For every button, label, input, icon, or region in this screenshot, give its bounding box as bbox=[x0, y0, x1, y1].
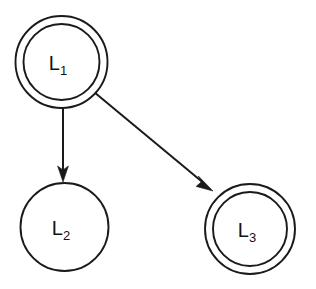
node-l2-outer-circle bbox=[21, 183, 109, 271]
graph-canvas: L1 L2 L3 bbox=[0, 0, 316, 289]
node-l2-label-subscript: 2 bbox=[63, 228, 70, 243]
node-l2[interactable]: L2 bbox=[21, 183, 109, 271]
node-l1-label-base: L bbox=[49, 52, 60, 74]
node-l1-inner-circle bbox=[24, 24, 100, 100]
node-l3-label-base: L bbox=[238, 219, 249, 241]
edge-line-l1-l3 bbox=[94, 92, 205, 184]
edge-l1-to-l3 bbox=[94, 92, 213, 191]
node-l2-label-base: L bbox=[52, 217, 63, 239]
node-l3-inner-circle bbox=[213, 192, 287, 266]
node-l1-label-subscript: 1 bbox=[60, 63, 67, 78]
diagram-root: L1 L2 L3 bbox=[0, 0, 316, 289]
node-l1[interactable]: L1 bbox=[16, 16, 108, 108]
node-l3[interactable]: L3 bbox=[205, 184, 295, 274]
node-l3-label-subscript: 3 bbox=[249, 230, 256, 245]
edge-l1-to-l2 bbox=[58, 107, 69, 182]
